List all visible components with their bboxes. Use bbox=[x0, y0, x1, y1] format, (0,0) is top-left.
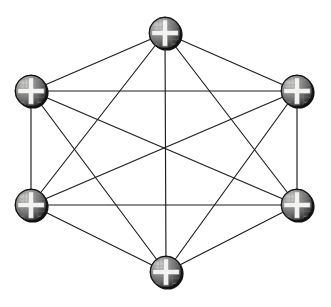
complete-graph-svg bbox=[0, 0, 331, 307]
graph-edge bbox=[31, 205, 166, 272]
graph-edges-layer bbox=[31, 33, 297, 272]
graph-node-hit-area[interactable] bbox=[280, 74, 314, 108]
graph-node-lower-right[interactable] bbox=[280, 188, 329, 223]
graph-edge bbox=[166, 91, 297, 272]
graph-edge bbox=[31, 33, 165, 91]
graph-node-hit-area[interactable] bbox=[14, 74, 48, 108]
graph-node-hit-area[interactable] bbox=[14, 188, 48, 222]
graph-node-top[interactable] bbox=[148, 16, 197, 51]
graph-edge bbox=[166, 205, 297, 272]
graph-node-hit-area[interactable] bbox=[148, 16, 182, 50]
graph-node-hit-area[interactable] bbox=[149, 255, 183, 289]
graph-node-bottom[interactable] bbox=[149, 255, 198, 290]
graph-node-upper-right[interactable] bbox=[280, 74, 329, 109]
graph-node-hit-area[interactable] bbox=[280, 188, 314, 222]
graph-edge bbox=[165, 33, 166, 272]
graph-edge bbox=[31, 33, 165, 205]
diagram-canvas bbox=[0, 0, 331, 307]
graph-edge bbox=[165, 33, 297, 91]
graph-nodes-layer bbox=[14, 16, 329, 290]
